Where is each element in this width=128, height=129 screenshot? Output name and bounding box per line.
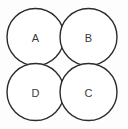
circle-a-label: A (32, 32, 40, 44)
circle-group-c[interactable]: C (60, 64, 117, 121)
circle-c-label: C (84, 87, 92, 99)
diagram-canvas: A B D C (0, 0, 128, 129)
circle-group-a[interactable]: A (7, 9, 64, 66)
circle-group-b[interactable]: B (60, 9, 117, 66)
circles-diagram: A B D C (0, 0, 128, 129)
circle-d-label: D (31, 87, 39, 99)
circle-b-label: B (85, 32, 93, 44)
circle-group-d[interactable]: D (7, 64, 64, 121)
